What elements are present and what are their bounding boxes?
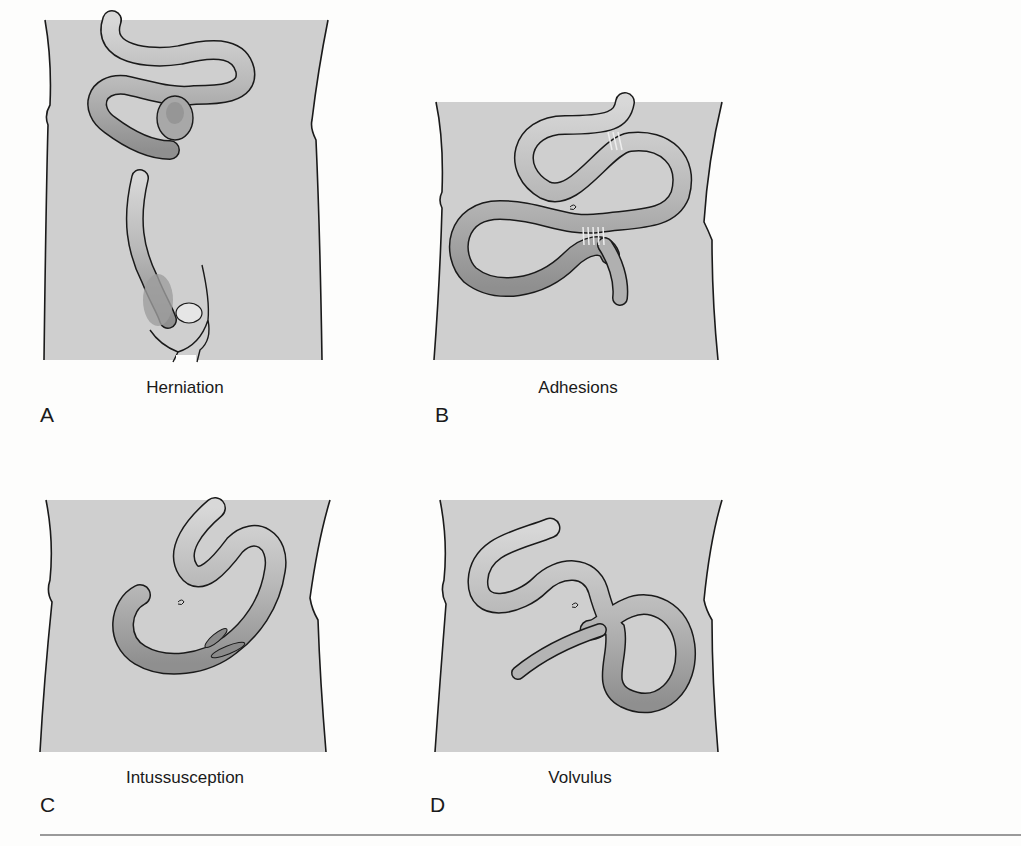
panel-letter: D (430, 793, 445, 817)
panel-letter: C (40, 793, 55, 817)
panel-caption: Intussusception (112, 768, 258, 788)
hernia-illustration (0, 0, 400, 420)
panel-letter: B (435, 403, 449, 427)
panel-adhesions: Adhesions B (400, 80, 740, 420)
panel-intussusception: Intussusception C (0, 480, 400, 780)
panel-caption: Volvulus (530, 768, 630, 788)
adhesions-illustration (400, 80, 740, 420)
intussusception-illustration (0, 480, 400, 780)
bottom-rule (40, 834, 1021, 836)
panel-letter: A (40, 403, 54, 427)
panel-herniation: Herniation A (0, 0, 400, 420)
volvulus-illustration (400, 480, 740, 780)
panel-caption: Herniation (135, 378, 235, 398)
panel-volvulus: Volvulus D (400, 480, 740, 780)
panel-caption: Adhesions (528, 378, 628, 398)
